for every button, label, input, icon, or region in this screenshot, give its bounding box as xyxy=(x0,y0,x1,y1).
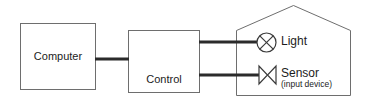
control-unit-label: Control Unit xyxy=(128,48,200,104)
control-system-diagram: Computer Control Unit Light Sensor (inpu… xyxy=(0,0,365,104)
sensor-bowtie-icon xyxy=(259,66,276,84)
lamp-circle-cross-icon xyxy=(257,33,276,52)
light-label: Light xyxy=(281,35,307,48)
sensor-sublabel: (input device) xyxy=(281,80,332,90)
control-unit-label-line1: Control xyxy=(128,73,200,85)
computer-label: Computer xyxy=(20,50,96,62)
